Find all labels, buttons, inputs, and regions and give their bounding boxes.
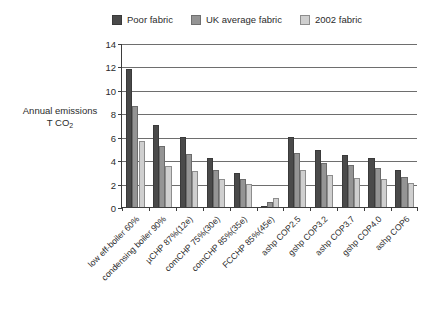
y-tick-label: 12 xyxy=(105,62,116,73)
bar xyxy=(381,179,387,207)
bar xyxy=(354,178,360,207)
legend-item-2002-fabric: 2002 fabric xyxy=(300,14,362,25)
y-tick-label: 6 xyxy=(111,132,116,143)
legend-label: Poor fabric xyxy=(127,14,173,25)
emissions-bar-chart: Poor fabric UK average fabric 2002 fabri… xyxy=(0,0,433,317)
y-tick-label: 0 xyxy=(111,203,116,214)
y-tick-label: 2 xyxy=(111,179,116,190)
legend-swatch-icon xyxy=(112,15,122,25)
legend-item-poor-fabric: Poor fabric xyxy=(112,14,173,25)
y-axis-title-line2: T CO2 xyxy=(47,117,73,128)
bars-layer xyxy=(122,44,417,207)
plot-area: 02468101214 xyxy=(121,44,417,208)
y-axis-title-line1: Annual emissions xyxy=(23,105,97,116)
y-tick-label: 14 xyxy=(105,39,116,50)
bar xyxy=(327,175,333,207)
y-tick-label: 10 xyxy=(105,85,116,96)
legend-label: 2002 fabric xyxy=(315,14,362,25)
bar xyxy=(246,184,252,207)
x-tick-mark xyxy=(417,207,418,211)
bar xyxy=(273,198,279,207)
bar xyxy=(139,141,145,207)
chart-legend: Poor fabric UK average fabric 2002 fabri… xyxy=(112,14,362,25)
bar xyxy=(219,179,225,207)
bar xyxy=(192,171,198,207)
y-axis-title: Annual emissions T CO2 xyxy=(14,105,106,130)
y-tick-label: 4 xyxy=(111,156,116,167)
bar xyxy=(165,166,171,207)
legend-item-uk-average-fabric: UK average fabric xyxy=(191,14,282,25)
legend-swatch-icon xyxy=(191,15,201,25)
y-tick-label: 8 xyxy=(111,109,116,120)
bar xyxy=(408,183,414,207)
legend-swatch-icon xyxy=(300,15,310,25)
x-axis-labels: low eff-boiler 60%condensing boiler 90%µ… xyxy=(121,208,417,313)
bar xyxy=(300,170,306,207)
legend-label: UK average fabric xyxy=(206,14,282,25)
